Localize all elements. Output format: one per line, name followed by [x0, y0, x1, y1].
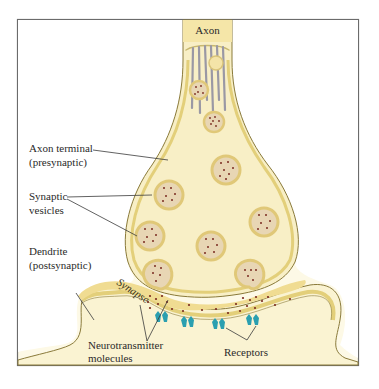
label-dendrite: Dendrite	[29, 245, 68, 257]
label-synaptic-vesicles: Synaptic	[29, 190, 68, 202]
label-axon: Axon	[195, 24, 220, 36]
label-neurotransmitter: Neurotransmitter	[88, 339, 163, 351]
label-axon-terminal: Axon terminal	[29, 142, 93, 154]
synapse-diagram: Axon	[0, 0, 379, 389]
label-synaptic-vesicles-sub: vesicles	[29, 204, 64, 216]
label-neurotransmitter-sub: molecules	[88, 352, 133, 364]
label-dendrite-sub: (postsynaptic)	[29, 259, 92, 272]
label-receptors: Receptors	[224, 346, 268, 358]
label-axon-terminal-sub: (presynaptic)	[29, 156, 87, 169]
